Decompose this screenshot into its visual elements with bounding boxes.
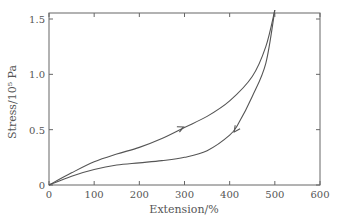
y-axis-label: Stress/10⁵ Pa [6, 65, 19, 140]
plot-frame [49, 13, 320, 185]
x-tick-label: 0 [46, 189, 52, 200]
x-tick-label: 600 [310, 189, 329, 200]
x-tick-label: 500 [265, 189, 284, 200]
x-tick-label: 200 [130, 189, 149, 200]
y-tick-label: 0.5 [29, 125, 45, 136]
curve-unloading [49, 10, 275, 185]
x-tick-label: 300 [175, 189, 194, 200]
x-tick-label: 100 [85, 189, 104, 200]
hysteresis-curves [49, 10, 275, 185]
y-tick-label: 1.0 [29, 69, 45, 80]
x-axis-label: Extension/% [149, 203, 218, 216]
stress-extension-chart: 010020030040050060000.51.01.5 Extension/… [0, 0, 341, 220]
y-tick-label: 0 [39, 180, 45, 191]
curve-loading [49, 10, 275, 185]
x-tick-label: 400 [220, 189, 239, 200]
y-tick-label: 1.5 [29, 14, 45, 25]
